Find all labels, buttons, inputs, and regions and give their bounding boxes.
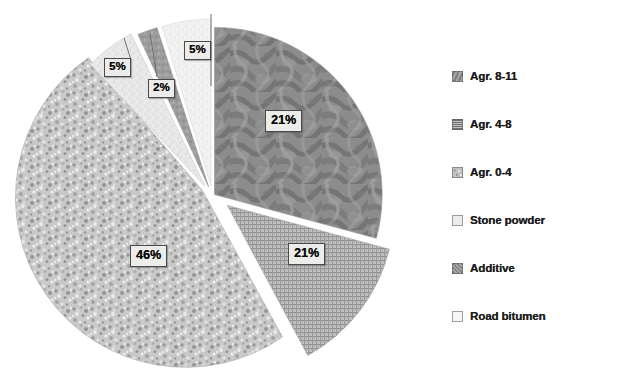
pie-chart-figure: 21% 21% 46% 5% 2% 5% Agr. 8-11 Agr. 4-8 … xyxy=(0,0,617,386)
swatch-speckled-icon xyxy=(452,167,463,178)
slice-label-agr-0-4: 46% xyxy=(130,245,167,267)
swatch-medium-gray-icon xyxy=(452,263,463,274)
legend-label-agr-8-11: Agr. 8-11 xyxy=(470,70,517,82)
swatch-crosshatch-icon xyxy=(452,119,463,130)
legend-item-agr-8-11[interactable]: Agr. 8-11 xyxy=(452,52,612,100)
swatch-dark-marble-icon xyxy=(452,71,463,82)
legend-label-additive: Additive xyxy=(470,262,515,274)
slice-label-road-bitumen: 5% xyxy=(184,41,211,60)
legend-item-stone-powder[interactable]: Stone powder xyxy=(452,196,612,244)
legend-item-additive[interactable]: Additive xyxy=(452,244,612,292)
pie-slices-group xyxy=(15,19,389,367)
legend-item-road-bitumen[interactable]: Road bitumen xyxy=(452,292,612,340)
legend-item-agr-4-8[interactable]: Agr. 4-8 xyxy=(452,100,612,148)
pie-slice-agr-8-11[interactable] xyxy=(215,27,383,238)
legend-label-stone-powder: Stone powder xyxy=(470,214,545,226)
legend-label-agr-0-4: Agr. 0-4 xyxy=(470,166,511,178)
legend-item-agr-0-4[interactable]: Agr. 0-4 xyxy=(452,148,612,196)
legend-label-road-bitumen: Road bitumen xyxy=(470,310,545,322)
slice-label-stone-powder: 5% xyxy=(104,58,131,77)
slice-label-agr-8-11: 21% xyxy=(265,110,302,132)
swatch-light-paper-icon xyxy=(452,215,463,226)
legend-label-agr-4-8: Agr. 4-8 xyxy=(470,118,511,130)
chart-legend: Agr. 8-11 Agr. 4-8 Agr. 0-4 Stone powder… xyxy=(452,52,612,340)
slice-label-agr-4-8: 21% xyxy=(288,243,325,265)
slice-label-additive: 2% xyxy=(148,79,175,98)
swatch-very-light-icon xyxy=(452,311,463,322)
